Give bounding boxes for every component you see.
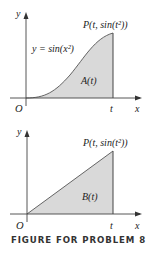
t-label: t (110, 220, 113, 231)
y-axis-arrow-icon (24, 12, 29, 19)
origin-label: O (16, 220, 24, 231)
area-a-label: A(t) (80, 75, 97, 87)
area-b-label: B(t) (82, 191, 98, 203)
x-axis-label: x (134, 103, 140, 114)
y-axis-label: y (16, 126, 22, 137)
y-axis-arrow-icon (25, 130, 30, 137)
origin-label: O (15, 103, 23, 114)
x-axis-arrow-icon (135, 212, 142, 217)
bottom-graph: y x O t P(t, sin(t²)) B(t) (10, 126, 142, 231)
x-axis-label: x (134, 220, 140, 231)
point-label: P(t, sin(t²)) (82, 19, 128, 31)
x-axis-arrow-icon (135, 96, 142, 101)
point-label: P(t, sin(t²)) (82, 137, 128, 149)
curve-label: y = sin(x²) (31, 43, 75, 55)
figure-canvas: y x O t P(t, sin(t²)) y = sin(x²) A(t) y… (0, 0, 159, 256)
t-label: t (110, 103, 113, 114)
y-axis-label: y (15, 8, 21, 19)
top-graph: y x O t P(t, sin(t²)) y = sin(x²) A(t) (10, 8, 142, 114)
figure-caption: FIGURE FOR PROBLEM 8 (11, 235, 146, 245)
